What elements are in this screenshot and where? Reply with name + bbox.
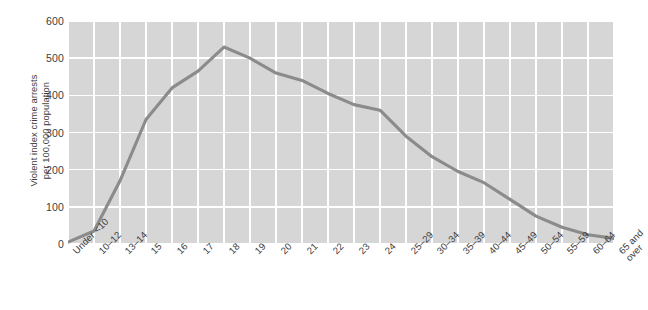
x-axis-tick-label: 35–39 xyxy=(461,230,488,257)
x-axis-tick-label: 22 xyxy=(331,241,346,256)
x-axis-tick-label: 24 xyxy=(383,241,398,256)
x-axis-tick-label: 45–49 xyxy=(513,230,540,257)
x-axis-tick-label: 25–29 xyxy=(409,230,436,257)
x-axis-tick-label: 30–34 xyxy=(435,230,462,257)
x-axis-tick-label: 15 xyxy=(149,241,164,256)
x-axis-tick-label: 16 xyxy=(175,241,190,256)
x-axis-tick-label: 21 xyxy=(305,241,320,256)
x-axis-tick-label: 13–14 xyxy=(123,230,150,257)
x-axis-tick-label: 55–59 xyxy=(565,230,592,257)
x-axis-tick-label: 40–44 xyxy=(487,230,514,257)
x-axis-tick-label: 19 xyxy=(253,241,268,256)
x-axis-tick-label: 20 xyxy=(279,241,294,256)
x-axis-tick-label: 18 xyxy=(227,241,242,256)
x-axis-tick-label: 23 xyxy=(357,241,372,256)
x-axis-tick-label: 60–64 xyxy=(591,230,618,257)
x-axis-tick-label: 17 xyxy=(201,241,216,256)
x-axis-tick-label: 65 and over xyxy=(617,228,648,263)
x-axis-tick-label: 50–54 xyxy=(539,230,566,257)
